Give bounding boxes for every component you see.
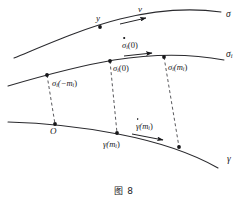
vector-label-gamma-dot-mi: γ(mi) (136, 122, 153, 132)
figure-caption: 图 8 (0, 184, 248, 197)
point-gamma-right (177, 145, 181, 149)
gamma-dot-base: γ (136, 121, 139, 131)
dot-accent-sigma-i: σ (122, 41, 126, 50)
point-label-sigma-i-zero: σi(0) (113, 64, 129, 74)
figure-drawing-canvas (0, 0, 248, 206)
vector-label-sigma-i-dot-zero: σi(0) (122, 41, 138, 51)
gamma-mi-close-paren: ) (117, 139, 120, 149)
point-gamma-mi (115, 131, 119, 135)
sigma-i-dot-argument: (0) (128, 40, 138, 50)
dot-accent-mark (123, 37, 125, 39)
dot-accent-mark-gamma (137, 118, 139, 120)
point-sigma-i-neg-mi (45, 73, 49, 77)
sigma-i-mi-close-paren: ) (184, 62, 187, 72)
curve-label-gamma: γ (227, 155, 231, 165)
vector-label-v: v (138, 5, 142, 14)
sigma-i-mi-argument: (m (174, 62, 183, 72)
sigma-i-dot-base: σ (122, 40, 126, 50)
gamma-mi-argument: (m (106, 139, 115, 149)
sigma-i-neg-close-paren: ) (74, 78, 77, 88)
point-label-sigma-i-neg-mi: σi(−mi) (52, 79, 77, 89)
point-label-origin: O (50, 127, 57, 136)
point-y-on-sigma (98, 25, 102, 29)
arrow-sigma-i-dot (124, 53, 152, 56)
figure-container: σ σi γ y v σi(0) σi(−mi) σi(0) σi(mi) O … (0, 0, 248, 206)
point-label-gamma-mi: γ(mi) (103, 140, 120, 150)
point-sigma-i-zero (108, 59, 112, 63)
arrow-v (120, 18, 146, 24)
sigma-i-neg-argument: (−m (58, 78, 73, 88)
point-sigma-i-mi (162, 55, 166, 59)
curve-sigma (14, 10, 221, 58)
point-label-y: y (96, 14, 100, 23)
curve-label-sigma: σ (226, 10, 231, 20)
dot-accent-gamma: γ (136, 122, 139, 131)
sigma-i-zero-argument: (0) (119, 63, 129, 73)
gamma-dot-argument: (m (139, 121, 148, 131)
gamma-dot-close-paren: ) (150, 121, 153, 131)
curve-label-sigma-i-subscript: i (231, 52, 233, 59)
curve-label-sigma-i: σi (226, 50, 232, 60)
point-label-sigma-i-mi: σi(mi) (168, 63, 187, 73)
arrow-gamma-dot (132, 134, 163, 140)
